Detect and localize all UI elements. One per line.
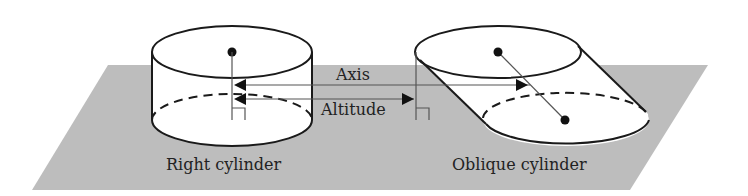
- altitude-label: Altitude: [320, 100, 386, 119]
- top-center-dot: [494, 48, 503, 57]
- right-cylinder: [152, 26, 312, 146]
- bottom-center-dot: [561, 116, 570, 125]
- right-cylinder-label: Right cylinder: [166, 155, 281, 174]
- axis-label: Axis: [335, 65, 370, 84]
- oblique-cylinder-label: Oblique cylinder: [452, 155, 587, 174]
- cylinders-diagram: Axis Altitude Right cylinder Oblique cyl…: [0, 0, 748, 196]
